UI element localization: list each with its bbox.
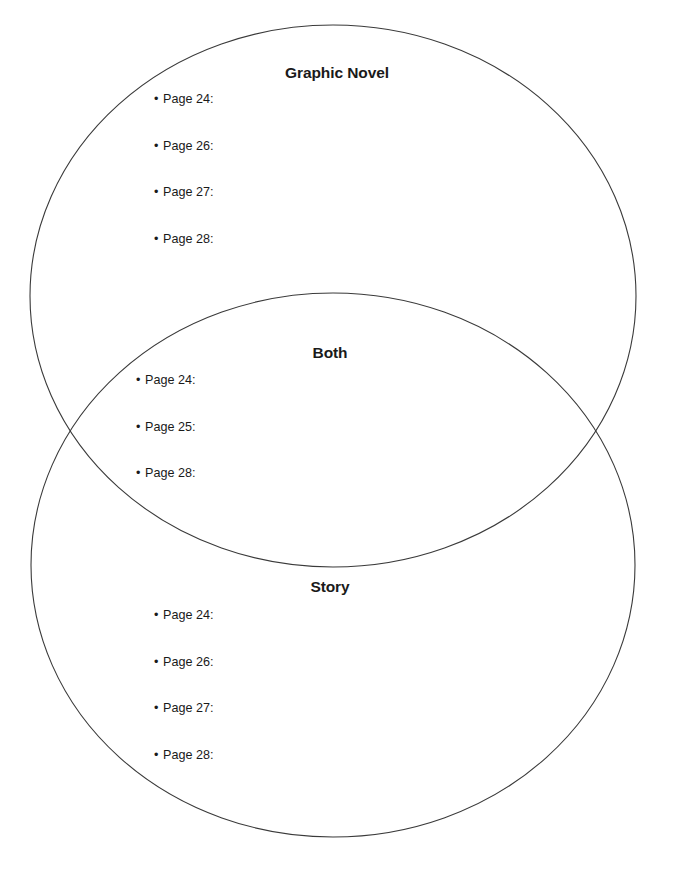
- venn-diagram-shapes: [0, 0, 674, 877]
- story-ellipse: [31, 293, 635, 837]
- region-title-story: Story: [0, 578, 660, 596]
- list-item[interactable]: •Page 28:: [154, 749, 213, 796]
- list-item[interactable]: •Page 28:: [136, 467, 195, 514]
- graphic-novel-ellipse: [30, 25, 636, 567]
- list-item[interactable]: •Page 26:: [154, 140, 213, 187]
- list-item-label: Page 28:: [145, 467, 195, 480]
- list-item-label: Page 24:: [163, 93, 213, 106]
- region-title-graphic-novel: Graphic Novel: [0, 64, 674, 82]
- bullet-point-icon: •: [136, 467, 145, 480]
- list-item-label: Page 28:: [163, 233, 213, 246]
- list-item-label: Page 25:: [145, 421, 195, 434]
- list-item[interactable]: •Page 28:: [154, 233, 213, 280]
- list-item[interactable]: •Page 24:: [136, 374, 195, 421]
- list-item-label: Page 24:: [163, 609, 213, 622]
- list-item-label: Page 24:: [145, 374, 195, 387]
- bullet-point-icon: •: [154, 186, 163, 199]
- bullet-point-icon: •: [154, 93, 163, 106]
- bullet-point-icon: •: [154, 749, 163, 762]
- bullet-point-icon: •: [154, 140, 163, 153]
- bullet-point-icon: •: [136, 374, 145, 387]
- list-item-label: Page 28:: [163, 749, 213, 762]
- bullet-point-icon: •: [154, 656, 163, 669]
- bullet-point-icon: •: [154, 233, 163, 246]
- list-item[interactable]: •Page 27:: [154, 186, 213, 233]
- list-item[interactable]: •Page 24:: [154, 609, 213, 656]
- list-item-label: Page 26:: [163, 656, 213, 669]
- bullet-point-icon: •: [154, 609, 163, 622]
- list-item[interactable]: •Page 25:: [136, 421, 195, 468]
- list-item[interactable]: •Page 26:: [154, 656, 213, 703]
- bullet-list-story: •Page 24: •Page 26: •Page 27: •Page 28:: [154, 609, 213, 796]
- list-item-label: Page 27:: [163, 702, 213, 715]
- bullet-list-both: •Page 24: •Page 25: •Page 28:: [136, 374, 195, 514]
- region-title-both: Both: [0, 344, 660, 362]
- list-item-label: Page 27:: [163, 186, 213, 199]
- list-item[interactable]: •Page 24:: [154, 93, 213, 140]
- list-item-label: Page 26:: [163, 140, 213, 153]
- bullet-point-icon: •: [154, 702, 163, 715]
- bullet-list-graphic-novel: •Page 24: •Page 26: •Page 27: •Page 28:: [154, 93, 213, 280]
- bullet-point-icon: •: [136, 421, 145, 434]
- venn-diagram-worksheet: Graphic Novel •Page 24: •Page 26: •Page …: [0, 0, 674, 877]
- list-item[interactable]: •Page 27:: [154, 702, 213, 749]
